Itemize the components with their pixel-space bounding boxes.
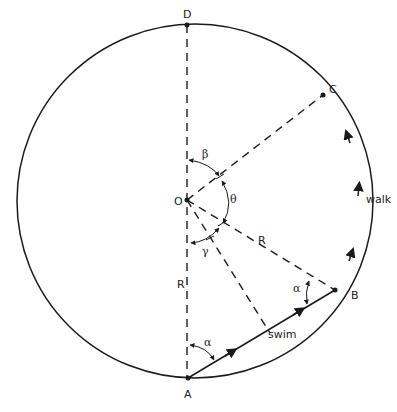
walk-arrow-3 bbox=[347, 134, 350, 143]
label-O: O bbox=[174, 195, 183, 208]
perpendicular-to-chord-dashed bbox=[187, 200, 270, 333]
angle-alpha-B-arc bbox=[306, 281, 309, 304]
swim-arrow-1 bbox=[225, 351, 233, 356]
label-R-OB: R bbox=[258, 234, 266, 247]
label-theta: θ bbox=[230, 193, 237, 206]
label-alpha-B: α bbox=[293, 282, 301, 295]
point-O bbox=[185, 198, 190, 203]
label-walk: walk bbox=[366, 193, 392, 206]
walk-arrow-2 bbox=[358, 186, 359, 196]
label-A: A bbox=[184, 388, 192, 401]
point-A bbox=[186, 376, 191, 381]
label-gamma: γ bbox=[202, 245, 209, 258]
circle bbox=[17, 24, 373, 378]
angle-beta-arc bbox=[189, 160, 219, 176]
angle-gamma-arc bbox=[191, 228, 219, 243]
circle-swim-walk-diagram: D C O B A β θ γ α α R R swim walk bbox=[0, 0, 397, 412]
label-R-OA: R bbox=[177, 278, 185, 291]
point-B bbox=[333, 288, 338, 293]
label-D: D bbox=[183, 8, 191, 21]
point-D bbox=[185, 23, 190, 28]
point-C bbox=[321, 93, 326, 98]
label-alpha-A: α bbox=[204, 336, 212, 349]
angle-theta-arc bbox=[222, 181, 229, 223]
label-beta: β bbox=[202, 148, 208, 161]
label-swim: swim bbox=[268, 328, 297, 341]
label-B: B bbox=[351, 289, 359, 302]
swim-arrow-2 bbox=[293, 310, 301, 315]
tick-beta-theta bbox=[216, 174, 224, 179]
walk-arrow-1 bbox=[349, 252, 352, 261]
label-C: C bbox=[329, 83, 337, 96]
